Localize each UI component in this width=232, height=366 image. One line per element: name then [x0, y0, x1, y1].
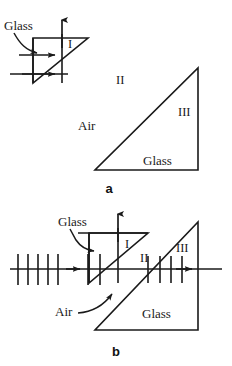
label-air-b: Air — [55, 304, 73, 319]
label-region-two-b: II — [140, 251, 148, 265]
label-glass-small-a: Glass — [4, 18, 33, 33]
label-glass-large-b: Glass — [142, 306, 171, 321]
panel-a-glass-callout: Glass — [4, 18, 37, 53]
label-region-one-b: I — [125, 237, 129, 251]
ray-diagram-figure: Glass I II III Air Glass a — [0, 0, 232, 366]
label-glass-small-b: Glass — [58, 214, 87, 229]
label-air-a: Air — [78, 118, 96, 133]
panel-label-b: b — [112, 344, 120, 359]
label-region-three-b: III — [176, 241, 189, 255]
panel-a: Glass I II III Air Glass a — [4, 18, 198, 196]
panel-b: Glass Air I II III Glass b — [10, 214, 222, 359]
label-region-three-a: III — [178, 105, 191, 119]
panel-b-air-callout: Air — [55, 294, 112, 319]
label-glass-large-a: Glass — [143, 153, 172, 168]
air-callout-arrow-b — [78, 294, 112, 313]
small-prism-triangle — [33, 38, 88, 83]
label-region-two-a: II — [116, 73, 124, 87]
panel-label-a: a — [105, 181, 113, 196]
label-region-one-a: I — [68, 37, 72, 51]
figure-root: Glass I II III Air Glass a — [0, 0, 232, 366]
panel-a-small-prism — [22, 34, 88, 83]
